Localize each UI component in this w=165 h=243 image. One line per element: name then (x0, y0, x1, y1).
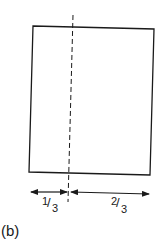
rectangle (29, 26, 154, 175)
dimension-right: 2 / 3 (71, 192, 149, 215)
label-slash: / (47, 195, 51, 210)
dashed-divider-line (68, 15, 73, 202)
label-three: 3 (52, 202, 58, 214)
figure-caption: (b) (1, 222, 19, 239)
diagram: 1 / 3 2 / 3 (0, 0, 165, 243)
label-slash: / (116, 195, 120, 210)
dimension-left: 1 / 3 (31, 192, 67, 214)
label-three: 3 (121, 203, 127, 215)
